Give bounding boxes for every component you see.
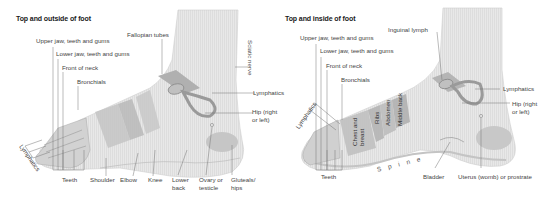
panel-title: Top and outside of foot [16,15,91,22]
label-front-of-neck: Front of neck [326,62,362,70]
label-bronchials: Bronchials [77,78,106,86]
label-abdomen: Abdomen [385,100,392,127]
label-bladder: Bladder [423,173,444,181]
label-front-of-neck: Front of neck [62,64,98,72]
panel-top-inside-foot: Top and inside of foot Inguinal lymph Up… [280,0,559,202]
label-middle-back: Middle back [397,93,404,126]
label-shoulder: Shoulder [90,176,115,184]
toes [303,120,340,165]
label-inguinal-lymph: Inguinal lymph [388,26,428,34]
label-lymphatics-ankle: Lymphatics [503,85,534,93]
label-hip: Hip (right or left) [252,108,277,123]
label-lower-jaw: Lower jaw, teeth and gums [56,50,130,58]
label-knee: Knee [148,176,162,184]
label-uterus-prostrate: Uterus (womb) or prostrate [458,173,532,181]
toes [35,118,90,168]
label-upper-jaw: Upper jaw, teeth and gums [300,34,374,42]
label-bronchials: Bronchials [341,76,370,84]
uterus-zone [476,126,512,150]
panel-title: Top and inside of foot [285,15,355,22]
label-chest-breast: Chest and breast [352,118,365,146]
label-elbow: Elbow [120,176,137,184]
panel-top-outside-foot: Top and outside of foot Upper jaw, teeth… [0,0,280,202]
label-lower-back: Lower back [172,176,189,191]
label-upper-jaw: Upper jaw, teeth and gums [36,37,110,45]
label-lower-jaw: Lower jaw, teeth and gums [320,47,394,55]
label-teeth: Teeth [321,173,336,181]
label-sciatic-nerve: Sciatic nerve [247,40,254,75]
label-gluteals-hips: Gluteals/ hips [231,176,255,191]
label-ribs: Ribs [374,112,381,124]
label-fallopian-tubes: Fallopian tubes [127,31,169,39]
label-ovary-testicle: Ovary or testicle [199,176,223,191]
label-teeth: Teeth [62,176,77,184]
label-hip: Hip (right or left) [512,100,537,115]
